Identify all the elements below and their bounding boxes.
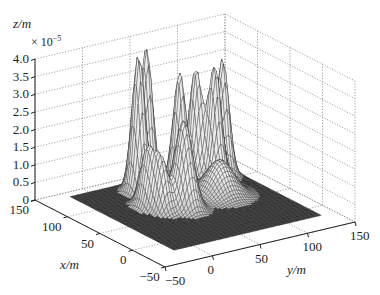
z-tick-label: 4.0 — [0, 52, 29, 65]
x-tick-label: 50 — [81, 237, 94, 250]
x-axis-label: x/m — [60, 258, 79, 271]
x-tick-label: −50 — [140, 270, 160, 283]
x-tick-label: 100 — [42, 220, 62, 233]
y-tick-label: 0 — [208, 263, 215, 276]
z-tick-label: 2.5 — [0, 105, 29, 118]
z-tick-label: 3.5 — [0, 70, 29, 83]
surface-mesh — [70, 50, 321, 251]
z-tick-label: 0.5 — [0, 175, 29, 188]
x-tick-label: 150 — [10, 203, 30, 216]
z-scale-exponent: −5 — [53, 34, 62, 43]
y-tick-label: 150 — [350, 229, 370, 242]
y-axis-label: y/m — [287, 263, 306, 276]
y-tick-label: −50 — [165, 274, 185, 287]
z-tick-label: 3.0 — [0, 87, 29, 100]
z-scale-label: × 10−5 — [31, 35, 61, 48]
surface-plot: z/m × 10−5 00.51.01.52.02.53.03.54.0 150… — [0, 0, 380, 295]
z-tick-label: 1.5 — [0, 140, 29, 153]
z-axis-label: z/m — [13, 17, 31, 30]
y-tick-label: 100 — [303, 240, 323, 253]
z-tick-label: 2.0 — [0, 123, 29, 136]
y-tick-label: 50 — [255, 252, 268, 265]
x-tick-label: 0 — [120, 253, 127, 266]
z-tick-label: 1.0 — [0, 158, 29, 171]
z-scale-base: × 10 — [31, 35, 53, 49]
